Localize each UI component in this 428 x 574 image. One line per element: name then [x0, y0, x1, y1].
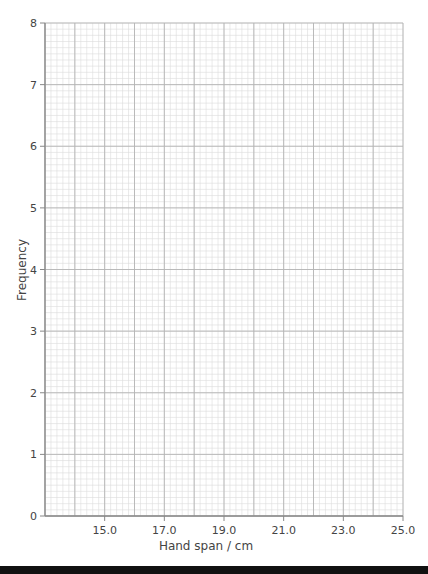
y-tick-label: 1 [30, 448, 37, 461]
x-tick-label: 19.0 [212, 524, 237, 537]
x-tick-label: 21.0 [271, 524, 296, 537]
y-tick-label: 5 [30, 202, 37, 215]
histogram-grid-chart: 15.017.019.021.023.025.0 012345678 Hand … [0, 0, 428, 574]
x-tick-label: 15.0 [92, 524, 117, 537]
y-tick-label: 2 [30, 387, 37, 400]
y-tick-label: 7 [30, 79, 37, 92]
x-axis-label: Hand span / cm [159, 539, 253, 553]
y-axis-ticks: 012345678 [30, 17, 45, 523]
x-axis-ticks: 15.017.019.021.023.025.0 [92, 516, 415, 537]
bottom-black-bar [0, 566, 428, 574]
y-axis-label: Frequency [15, 239, 29, 301]
x-tick-label: 25.0 [391, 524, 416, 537]
y-tick-label: 6 [30, 140, 37, 153]
x-tick-label: 23.0 [331, 524, 356, 537]
y-tick-label: 0 [30, 510, 37, 523]
x-tick-label: 17.0 [152, 524, 177, 537]
y-tick-label: 3 [30, 325, 37, 338]
y-tick-label: 8 [30, 17, 37, 30]
y-tick-label: 4 [30, 264, 37, 277]
